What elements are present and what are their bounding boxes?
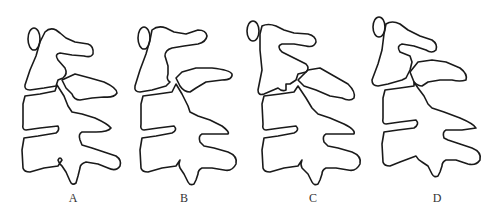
panel-a-upper-vertebra — [25, 29, 93, 90]
panel-b-drawing — [135, 27, 236, 185]
panel-label-d: D — [427, 191, 447, 206]
panel-a-drawing — [22, 28, 121, 184]
panel-label-b: B — [174, 191, 194, 206]
panel-a-upper-process — [62, 74, 117, 100]
panel-c-drawing — [247, 21, 360, 185]
panel-label-c: C — [303, 191, 323, 206]
panel-d-upper-vertebra — [372, 22, 437, 86]
panel-c-middle-vertebra — [262, 86, 360, 185]
panel-d-middle-vertebra — [382, 82, 480, 177]
panel-b-middle-vertebra — [140, 84, 236, 185]
panel-b-upper-vertebra — [135, 27, 207, 92]
panel-a-middle-vertebra — [22, 85, 121, 184]
panel-label-a: A — [63, 191, 83, 206]
panel-c-oval — [247, 21, 259, 41]
panel-c-upper-process — [298, 68, 354, 100]
panel-b-upper-process — [176, 68, 232, 92]
panel-c-upper-vertebra — [258, 25, 316, 95]
panel-d-drawing — [372, 17, 480, 177]
panel-d-upper-process — [410, 60, 466, 86]
vertebra-diagram — [0, 0, 501, 220]
